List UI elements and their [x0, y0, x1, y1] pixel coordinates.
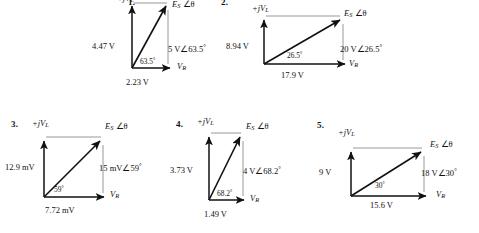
imaginary-axis-label-1: +jVL	[117, 0, 134, 4]
source-phasor-label-4: ES ∠θ	[246, 122, 269, 132]
imaginary-axis-label-2: +jVL	[252, 4, 269, 14]
horizontal-value-3: 7.72 mV	[45, 206, 75, 215]
horizontal-value-5: 15.6 V	[370, 201, 393, 210]
angle-value-2: 26.5°	[287, 52, 302, 60]
resultant-phasor-3	[44, 141, 100, 197]
vertical-value-3: 12.9 mV	[5, 163, 35, 172]
vertical-value-1: 4.47 V	[92, 42, 115, 51]
real-axis-label-5: VR	[436, 190, 445, 200]
source-phasor-label-2: ES ∠θ	[344, 9, 367, 19]
diagram-number-4: 4.	[176, 119, 183, 129]
horizontal-value-1: 2.23 V	[126, 78, 149, 87]
real-axis-label-2: VR	[349, 59, 358, 69]
angle-value-3: 59°	[54, 186, 64, 194]
imaginary-axis-label-3: +jVL	[32, 119, 49, 129]
imaginary-axis-label-4: +jVL	[197, 117, 214, 127]
imaginary-axis-label-5: +jVL	[338, 128, 355, 138]
source-phasor-label-3: ES ∠θ	[105, 122, 128, 132]
vertical-value-2: 8.94 V	[226, 42, 249, 51]
real-axis-label-1: VR	[177, 62, 186, 72]
source-phasor-label-5: ES ∠θ	[430, 140, 453, 150]
vertical-value-4: 3.73 V	[170, 166, 193, 175]
diagram-number-3: 3.	[11, 119, 18, 129]
construction-lines-2	[266, 16, 343, 60]
real-axis-label-4: VR	[250, 194, 259, 204]
angle-value-1: 63.5°	[140, 58, 155, 66]
resultant-value-4: 4 V∠68.2°	[243, 166, 281, 175]
resultant-value-2: 20 V∠26.5°	[340, 44, 382, 53]
real-axis-label-3: VR	[110, 190, 119, 200]
resultant-value-3: 15 mV∠59°	[99, 163, 142, 172]
construction-lines-5	[353, 148, 424, 192]
resultant-phasor-5	[351, 152, 421, 196]
vertical-value-5: 9 V	[319, 168, 331, 177]
source-phasor-label-1: ES ∠θ	[172, 0, 195, 10]
angle-value-5: 30°	[375, 182, 385, 190]
horizontal-value-2: 17.9 V	[281, 71, 304, 80]
resultant-value-1: 5 V∠63.5°	[168, 44, 206, 53]
diagram-number-5: 5.	[317, 120, 324, 130]
angle-value-4: 68.2°	[217, 190, 232, 198]
diagram-number-2: 2.	[221, 0, 228, 7]
horizontal-value-4: 1.49 V	[204, 210, 227, 219]
resultant-value-5: 18 V∠30°	[421, 168, 457, 177]
phasor-diagram-figure: 1. +jVL ES ∠θ 4.47 V 5 V∠63.5°	[0, 0, 479, 233]
